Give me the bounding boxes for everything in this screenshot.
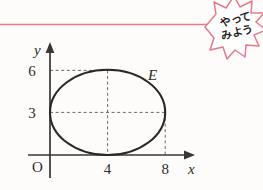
callout-starburst: やって みよう bbox=[205, 0, 263, 59]
x-axis-label: x bbox=[187, 161, 195, 177]
x-tick-label-4: 4 bbox=[104, 161, 112, 177]
figure-panel: やって みよう y x O 6 3 4 8 E bbox=[0, 0, 263, 190]
x-tick-label-8: 8 bbox=[161, 161, 169, 177]
curve-label-E: E bbox=[147, 67, 157, 83]
y-axis-label: y bbox=[32, 42, 41, 58]
y-tick-label-6: 6 bbox=[28, 63, 36, 79]
y-tick-label-3: 3 bbox=[28, 105, 36, 121]
textbook-figure-canvas: やって みよう y x O 6 3 4 8 E bbox=[0, 0, 263, 190]
y-axis-arrowhead bbox=[46, 42, 55, 53]
x-axis-arrowhead bbox=[184, 151, 195, 160]
origin-label: O bbox=[32, 159, 43, 175]
axes bbox=[28, 42, 195, 178]
